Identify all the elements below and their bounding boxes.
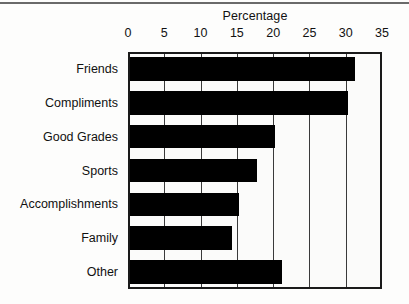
x-tick-label-0: 0 bbox=[125, 26, 132, 40]
bar-family bbox=[130, 226, 232, 250]
x-tick-label-30: 30 bbox=[339, 26, 353, 40]
bar-series bbox=[130, 54, 380, 287]
y-tick-label-other: Other bbox=[87, 265, 118, 279]
x-tick-label-10: 10 bbox=[194, 26, 208, 40]
x-tick-label-35: 35 bbox=[375, 26, 389, 40]
y-tick-label-sports: Sports bbox=[82, 164, 118, 178]
y-axis-category-labels: FriendsComplimentsGood GradesSportsAccom… bbox=[0, 52, 124, 289]
bar-friends bbox=[130, 57, 355, 81]
x-tick-label-20: 20 bbox=[266, 26, 280, 40]
y-tick-label-family: Family bbox=[81, 231, 118, 245]
page-top-rule bbox=[0, 2, 409, 4]
bar-accomplishments bbox=[130, 193, 239, 217]
y-tick-label-friends: Friends bbox=[76, 62, 118, 76]
bar-good-grades bbox=[130, 125, 275, 149]
chart-title: Percentage bbox=[128, 9, 382, 23]
bar-sports bbox=[130, 159, 257, 183]
x-tick-label-15: 15 bbox=[230, 26, 244, 40]
x-tick-label-25: 25 bbox=[302, 26, 316, 40]
chart-screenshot: Percentage 05101520253035 FriendsComplim… bbox=[0, 0, 409, 304]
y-tick-label-accomplishments: Accomplishments bbox=[20, 197, 118, 211]
bar-other bbox=[130, 260, 282, 284]
bar-compliments bbox=[130, 91, 348, 115]
y-tick-label-good-grades: Good Grades bbox=[43, 130, 118, 144]
y-tick-label-compliments: Compliments bbox=[45, 96, 118, 110]
x-tick-label-5: 5 bbox=[161, 26, 168, 40]
plot-area bbox=[128, 52, 382, 289]
x-axis-tick-labels: 05101520253035 bbox=[128, 26, 382, 42]
